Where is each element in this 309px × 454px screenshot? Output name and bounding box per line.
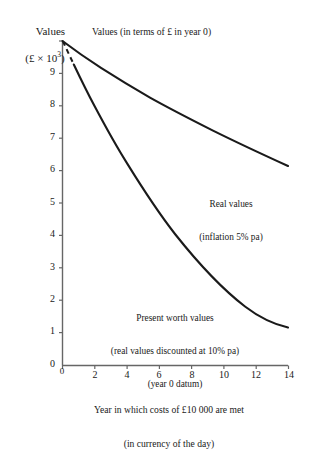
- y-tick-label-4: 4: [39, 228, 55, 239]
- y-tick-label-8: 8: [39, 98, 55, 109]
- chart-title: Values (in terms of £ in year 0): [92, 26, 211, 37]
- x-axis-title: Year in which costs of £10 000 are met (…: [38, 381, 300, 454]
- annotation-real-values: Real values (inflation 5% pa): [183, 177, 279, 265]
- y-axis-title-unit-pre: (£ × 10: [25, 52, 57, 64]
- x-axis-title-line2: (in currency of the day): [38, 438, 300, 449]
- series-real-values-curve: [63, 41, 289, 166]
- annotation-present-worth-line2: (real values discounted at 10% pa): [86, 346, 264, 357]
- y-tick-label-9: 9: [39, 66, 55, 77]
- annotation-real-values-line1: Real values: [183, 199, 279, 210]
- y-tick-label-7: 7: [39, 131, 55, 142]
- y-tick-label-6: 6: [39, 163, 55, 174]
- y-tick-label-1: 1: [39, 325, 55, 336]
- y-axis-title-unit-post: ): [61, 52, 65, 64]
- y-axis-title-line1: Values: [36, 25, 65, 37]
- annotation-real-values-line2: (inflation 5% pa): [183, 232, 279, 243]
- annotation-present-worth-line1: Present worth values: [86, 313, 264, 324]
- x-axis-title-line1: Year in which costs of £10 000 are met: [38, 404, 300, 415]
- y-axis-title: Values (£ × 103): [6, 12, 84, 90]
- y-tick-label-0: 0: [39, 358, 55, 369]
- y-tick-label-3: 3: [39, 261, 55, 272]
- y-tick-label-5: 5: [39, 196, 55, 207]
- y-tick-label-2: 2: [39, 293, 55, 304]
- x-tick-label-14: 14: [280, 369, 298, 380]
- y-axis-title-line2: (£ × 103): [6, 51, 84, 65]
- x-tick-label-0: 0: [55, 366, 69, 376]
